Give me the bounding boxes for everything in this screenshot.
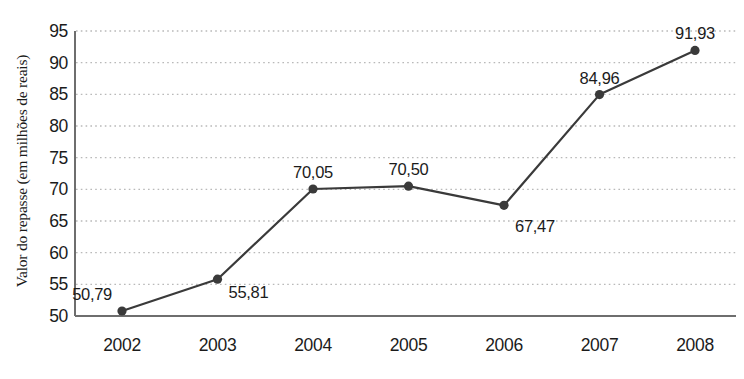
data-point-marker <box>117 306 126 315</box>
data-value-label: 50,79 <box>72 285 112 304</box>
data-point-marker <box>499 201 508 210</box>
data-point-marker <box>690 46 699 55</box>
x-axis-tick-label: 2002 <box>103 335 141 356</box>
x-axis-tick-label: 2008 <box>676 335 714 356</box>
line-chart: Valor do repasse (em milhões de reais) 9… <box>0 0 744 379</box>
data-point-marker <box>213 275 222 284</box>
x-axis-tick-label: 2007 <box>581 335 619 356</box>
data-point-marker <box>595 90 604 99</box>
data-value-label: 70,05 <box>293 163 333 182</box>
data-value-label: 91,93 <box>675 24 715 43</box>
data-point-marker <box>308 184 317 193</box>
series-line <box>122 50 695 311</box>
data-value-label: 70,50 <box>389 160 429 179</box>
data-value-label: 55,81 <box>229 283 269 302</box>
x-axis-tick-label: 2006 <box>485 335 523 356</box>
plot-area <box>0 0 744 379</box>
data-value-label: 67,47 <box>515 217 555 236</box>
x-axis-tick-label: 2004 <box>294 335 332 356</box>
data-value-label: 84,96 <box>580 69 620 88</box>
x-axis-tick-label: 2003 <box>199 335 237 356</box>
data-point-marker <box>404 182 413 191</box>
x-axis-tick-label: 2005 <box>390 335 428 356</box>
